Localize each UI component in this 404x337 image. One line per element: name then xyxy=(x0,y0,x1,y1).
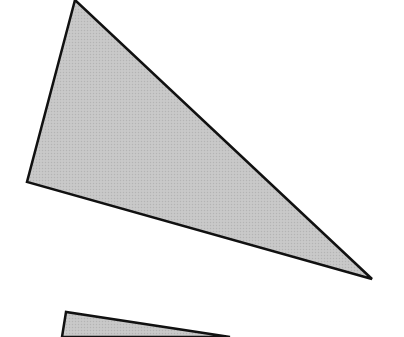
triangle-diagram xyxy=(0,0,404,337)
upper-triangle xyxy=(27,0,372,279)
diagram-canvas xyxy=(0,0,404,337)
lower-partial-shape xyxy=(62,312,230,337)
